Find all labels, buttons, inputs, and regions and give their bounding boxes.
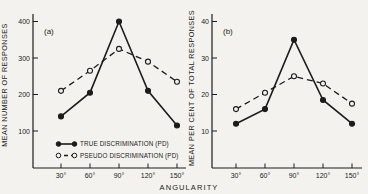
data-point-filled-circle <box>350 121 355 126</box>
y-tick-label: 100 <box>18 128 30 135</box>
data-point-filled-circle <box>321 97 326 102</box>
y-axis-title-a: MEAN NUMBER OF RESPONSES <box>0 23 9 146</box>
data-point-open-circle <box>146 59 151 64</box>
y-axis-title-b: MEAN PER CENT OF TOTAL RESPONSES <box>187 10 196 166</box>
data-point-open-circle <box>88 68 93 73</box>
x-tick-label: 30° <box>231 172 242 179</box>
legend-marker-open-circle <box>56 153 61 158</box>
x-tick-label: 30° <box>56 172 67 179</box>
legend-label: PSEUDO DISCRIMINATION (PD) <box>80 152 179 160</box>
figure-canvas: 10020030040030°60°90°120°150°(a)MEAN NUM… <box>0 0 368 194</box>
data-point-filled-circle <box>175 123 180 128</box>
x-tick-label: 90° <box>114 172 125 179</box>
legend-label: TRUE DISCRIMINATION (PD) <box>80 140 169 148</box>
x-tick-label: 150° <box>170 172 185 179</box>
legend-marker-open-circle <box>72 153 77 158</box>
data-point-filled-circle <box>88 90 93 95</box>
data-point-open-circle <box>234 107 239 112</box>
data-point-filled-circle <box>117 19 122 24</box>
y-tick-label: 200 <box>18 91 30 98</box>
panel-label-b: (b) <box>223 27 233 36</box>
y-tick-label: 20 <box>201 91 209 98</box>
x-tick-label: 60° <box>260 172 271 179</box>
legend-marker-filled-circle <box>72 142 77 147</box>
data-point-filled-circle <box>59 114 64 119</box>
data-point-filled-circle <box>292 37 297 42</box>
data-point-open-circle <box>263 90 268 95</box>
data-point-filled-circle <box>234 121 239 126</box>
x-tick-label: 90° <box>289 172 300 179</box>
x-tick-label: 60° <box>85 172 96 179</box>
panel-label-a: (a) <box>44 27 54 36</box>
data-point-open-circle <box>59 88 64 93</box>
two-panel-line-figure: 10020030040030°60°90°120°150°(a)MEAN NUM… <box>0 0 368 194</box>
data-point-open-circle <box>117 46 122 51</box>
y-tick-label: 40 <box>201 18 209 25</box>
y-tick-label: 400 <box>18 18 30 25</box>
data-point-filled-circle <box>146 88 151 93</box>
data-point-filled-circle <box>263 107 268 112</box>
x-tick-label: 120° <box>141 172 156 179</box>
x-tick-label: 150° <box>345 172 360 179</box>
data-point-open-circle <box>350 101 355 106</box>
data-point-open-circle <box>321 81 326 86</box>
y-tick-label: 30 <box>201 55 209 62</box>
data-point-open-circle <box>292 74 297 79</box>
legend-marker-filled-circle <box>56 142 61 147</box>
data-point-open-circle <box>175 79 180 84</box>
figure-background <box>0 0 368 194</box>
y-tick-label: 300 <box>18 55 30 62</box>
x-tick-label: 120° <box>316 172 331 179</box>
y-tick-label: 10 <box>201 128 209 135</box>
x-axis-title: ANGULARITY <box>160 183 219 192</box>
